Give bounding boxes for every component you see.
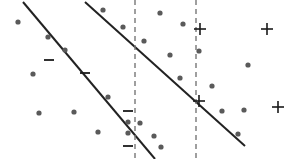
data-point-dot <box>157 10 162 15</box>
data-point-dot <box>100 7 105 12</box>
data-point-dot <box>141 38 146 43</box>
data-point-dot <box>105 94 110 99</box>
data-point-dot <box>71 109 76 114</box>
data-point-dot <box>180 21 185 26</box>
data-point-dot <box>62 47 67 52</box>
data-point-dot <box>36 110 41 115</box>
plot-background <box>0 0 299 159</box>
data-point-dot <box>158 144 163 149</box>
data-point-dot <box>235 131 240 136</box>
data-point-dot <box>137 120 142 125</box>
data-point-dot <box>95 129 100 134</box>
data-point-dot <box>219 108 224 113</box>
data-point-dot <box>151 133 156 138</box>
data-point-dot <box>120 24 125 29</box>
data-point-dot <box>209 83 214 88</box>
data-point-dot <box>15 19 20 24</box>
scatter-plot-svg <box>0 0 299 159</box>
data-point-dot <box>245 62 250 67</box>
data-point-dot <box>125 119 130 124</box>
data-point-dot <box>45 34 50 39</box>
data-point-dot <box>125 130 130 135</box>
figure-canvas <box>0 0 299 159</box>
data-point-dot <box>167 52 172 57</box>
data-point-dot <box>177 75 182 80</box>
data-point-dot <box>196 48 201 53</box>
data-point-dot <box>241 107 246 112</box>
data-point-dot <box>30 71 35 76</box>
